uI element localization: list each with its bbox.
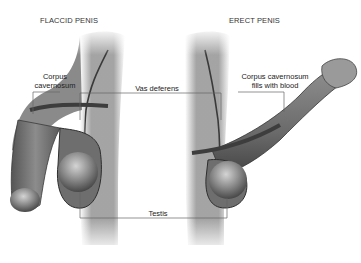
label-corpus-cavernosum-right: Corpus cavernosum fills with blood	[235, 72, 315, 90]
title-flaccid: FLACCID PENIS	[40, 16, 98, 25]
label-testis: Testis	[138, 209, 178, 218]
label-line: cavernosum	[32, 81, 78, 90]
illustration	[0, 0, 361, 263]
anatomy-diagram: FLACCID PENIS ERECT PENIS Corpus caverno…	[0, 0, 361, 263]
label-corpus-cavernosum-left: Corpus cavernosum	[32, 72, 78, 90]
label-vas-deferens: Vas deferens	[126, 84, 188, 93]
title-erect: ERECT PENIS	[229, 16, 280, 25]
label-line: Corpus cavernosum	[235, 72, 315, 81]
label-line: fills with blood	[235, 81, 315, 90]
label-line: Corpus	[32, 72, 78, 81]
